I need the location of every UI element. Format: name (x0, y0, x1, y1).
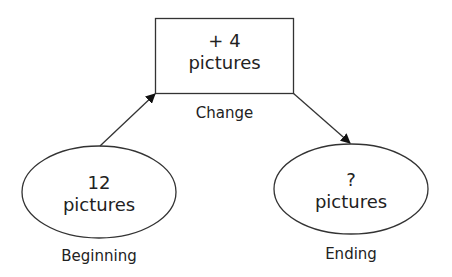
beginning-value: 12 (22, 173, 176, 193)
change-value: + 4 (155, 31, 294, 51)
change-unit: pictures (155, 53, 294, 73)
beginning-unit: pictures (22, 195, 176, 215)
arrow-change-to-ending (293, 93, 350, 143)
ending-caption: Ending (274, 245, 428, 263)
ending-unit: pictures (274, 192, 428, 212)
ending-value: ? (274, 170, 428, 190)
arrow-beginning-to-change (100, 94, 155, 146)
change-caption: Change (155, 104, 294, 122)
beginning-caption: Beginning (22, 247, 176, 265)
